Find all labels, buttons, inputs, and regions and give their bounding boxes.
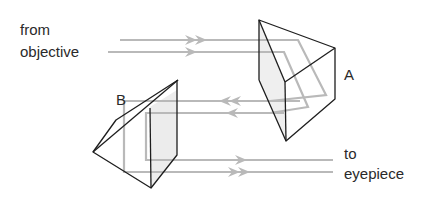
prism-a-label: A: [344, 66, 354, 83]
input-label-line2: objective: [20, 43, 79, 60]
beam-input-upper: [120, 40, 326, 101]
output-label-line2: eyepiece: [344, 165, 404, 182]
prism-a-shaded-face: [259, 20, 286, 141]
output-label-line1: to: [344, 145, 357, 162]
beam-arrows: [185, 35, 250, 177]
prism-b-label: B: [116, 91, 126, 108]
light-beams: [108, 40, 333, 172]
prism-b-shaded-face: [150, 90, 177, 188]
input-label-line1: from: [20, 21, 50, 38]
prism-diagram: from objective A B to eyepiece: [0, 0, 448, 199]
